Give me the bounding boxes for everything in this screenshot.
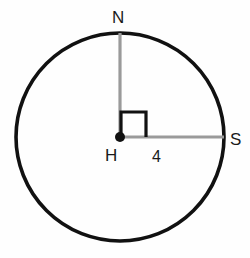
center-point-dot bbox=[115, 132, 125, 142]
label-point-h: H bbox=[105, 147, 117, 164]
circle-diagram-figure bbox=[0, 0, 250, 258]
label-point-s: S bbox=[230, 131, 241, 148]
label-point-n: N bbox=[112, 9, 124, 26]
label-radius-measure: 4 bbox=[152, 149, 161, 165]
diagram-canvas: N S H 4 bbox=[0, 0, 250, 258]
right-angle-marker-icon bbox=[121, 112, 146, 137]
